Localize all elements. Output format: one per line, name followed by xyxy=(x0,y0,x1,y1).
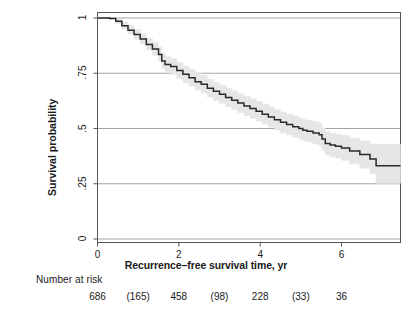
survival-curve-chart xyxy=(0,0,412,317)
